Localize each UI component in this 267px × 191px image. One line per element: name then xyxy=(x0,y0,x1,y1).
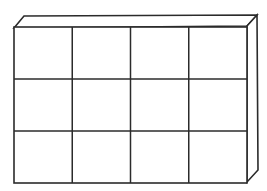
right-face xyxy=(247,15,258,182)
top-face xyxy=(14,15,257,28)
box-grid-diagram xyxy=(0,0,267,191)
